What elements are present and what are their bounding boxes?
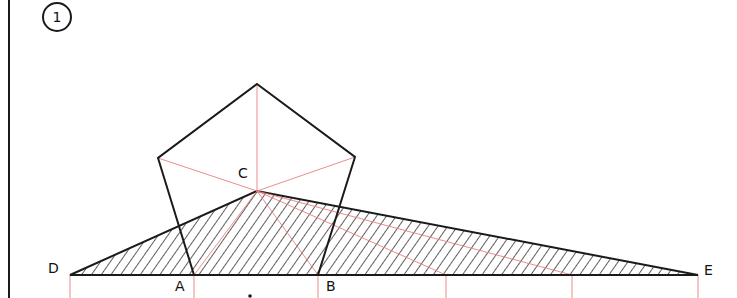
partial-mark <box>248 294 252 298</box>
label-a: A <box>175 278 185 294</box>
label-b: B <box>326 278 336 294</box>
step-number: 1 <box>53 9 62 25</box>
label-d: D <box>48 260 59 276</box>
geometry-diagram: 1 C D A B E <box>0 0 737 298</box>
shaded-triangle-dce <box>70 191 698 275</box>
label-c: C <box>238 165 248 181</box>
label-e: E <box>704 262 713 278</box>
